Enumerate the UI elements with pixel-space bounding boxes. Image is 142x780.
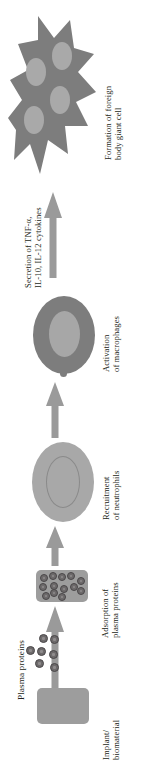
protein-dot (60, 585, 68, 593)
stage-label-line: of neutrophils (112, 471, 122, 520)
macrophage-cell (33, 296, 95, 374)
protein-dot (26, 646, 35, 655)
giant-cell-nucleus (52, 42, 72, 70)
stage-label-line: IL-10, IL-12 cytokines (34, 207, 44, 288)
stage-label-activation: Activation of macrophages (102, 316, 121, 372)
arrow-up-icon (46, 526, 64, 566)
stage-label-secretion: Secretion of TNF-α, IL-10, IL-12 cytokin… (24, 207, 43, 288)
stage-label-line: body giant cell (114, 86, 124, 160)
stage-label-line: biomaterial (112, 720, 122, 760)
protein-dot (58, 573, 66, 581)
protein-dot (67, 572, 75, 580)
giant-cell-nucleus (24, 106, 44, 134)
stage-label-line: of macrophages (112, 316, 122, 372)
giant-cell-nucleus (50, 86, 70, 114)
protein-dot (42, 592, 50, 600)
stage-label-line: plasma proteins (111, 582, 121, 638)
arrow-up-icon (46, 382, 64, 438)
giant-cell-nucleus (26, 58, 46, 86)
protein-dot (77, 587, 85, 595)
foreign-body-response-diagram: Formation of foreign body giant cell Sec… (0, 0, 142, 780)
arrow-activation (46, 382, 64, 438)
macrophage-nucleus (49, 311, 80, 357)
neutrophil-cell (32, 442, 94, 522)
side-label-plasma-proteins: Plasma proteins (16, 640, 26, 700)
free-plasma-proteins (22, 632, 62, 680)
protein-dot (39, 634, 48, 643)
protein-dot (50, 663, 59, 672)
protein-dot (39, 583, 47, 591)
implant-with-adsorbed-proteins (36, 570, 88, 602)
protein-dot (40, 574, 48, 582)
protein-dot (35, 659, 44, 668)
protein-dot (49, 572, 57, 580)
stage-label-recruitment: Recruitment of neutrophils (102, 471, 121, 520)
protein-dot (50, 635, 59, 644)
implant-biomaterial (37, 688, 89, 724)
stage-label-adsorption: Adsorption of plasma proteins (101, 582, 120, 638)
side-label-line: Plasma proteins (16, 640, 26, 700)
macrophage-tail (60, 370, 67, 377)
foreign-body-giant-cell (8, 14, 96, 186)
stage-label-giant-cell: Formation of foreign body giant cell (104, 86, 123, 160)
protein-dot (77, 577, 85, 585)
protein-dot (50, 589, 58, 597)
arrow-up-icon (44, 192, 62, 278)
neutrophil-nucleus (46, 456, 80, 508)
arrow-recruitment (46, 526, 64, 566)
arrow-secretion (44, 192, 62, 278)
protein-dot (37, 647, 46, 656)
protein-dot (58, 593, 66, 601)
stage-label-implant: Implant/ biomaterial (102, 720, 121, 760)
protein-dot (49, 650, 58, 659)
